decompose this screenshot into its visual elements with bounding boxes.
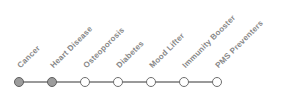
step-label-cancer: Cancer xyxy=(16,44,42,70)
step-dot-mood-lifter[interactable] xyxy=(146,77,156,87)
benefit-timeline: CancerHeart DiseaseOsteoporosisDiabetesM… xyxy=(0,0,299,100)
step-dot-heart-disease[interactable] xyxy=(47,77,57,87)
step-label-diabetes: Diabetes xyxy=(115,40,145,70)
step-dot-pms-preventers[interactable] xyxy=(212,77,222,87)
step-dot-diabetes[interactable] xyxy=(113,77,123,87)
step-dot-cancer[interactable] xyxy=(14,77,24,87)
step-label-immunity-booster: Immunity Booster xyxy=(181,14,237,70)
step-dot-osteoporosis[interactable] xyxy=(80,77,90,87)
step-dot-immunity-booster[interactable] xyxy=(179,77,189,87)
